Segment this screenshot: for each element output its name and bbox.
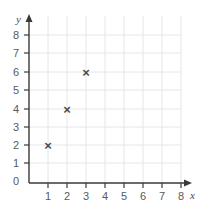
x-tick-label-2: 2 <box>60 191 74 202</box>
x-axis <box>29 180 192 189</box>
data-point-marker: × <box>59 101 75 117</box>
y-tick-label-1: 1 <box>5 158 19 169</box>
x-tick-label-4: 4 <box>98 191 112 202</box>
y-tick-label-2: 2 <box>5 140 19 151</box>
x-axis-label: x <box>190 190 195 201</box>
y-tick-label-4: 4 <box>5 104 19 115</box>
y-axis-label: y <box>16 14 21 25</box>
grid-lines <box>29 16 181 183</box>
y-tick-label-7: 7 <box>5 48 19 59</box>
data-point-marker: × <box>78 64 94 80</box>
x-axis-ticks <box>48 183 181 188</box>
x-tick-label-3: 3 <box>79 191 93 202</box>
plot-canvas <box>0 0 204 213</box>
x-tick-label-7: 7 <box>155 191 169 202</box>
y-tick-label-8: 8 <box>5 30 19 41</box>
x-tick-label-6: 6 <box>136 191 150 202</box>
x-tick-label-1: 1 <box>41 191 55 202</box>
y-tick-label-6: 6 <box>5 67 19 78</box>
y-axis <box>24 14 33 183</box>
origin-label-0: 0 <box>5 176 19 187</box>
y-tick-label-5: 5 <box>5 85 19 96</box>
data-point-marker: × <box>40 137 56 153</box>
x-tick-label-8: 8 <box>174 191 188 202</box>
y-tick-label-3: 3 <box>5 122 19 133</box>
y-axis-ticks <box>24 35 29 163</box>
scatter-plot-figure: 8 7 6 5 4 3 2 1 0 1 2 3 4 5 6 7 8 y x × … <box>0 0 204 213</box>
x-tick-label-5: 5 <box>117 191 131 202</box>
